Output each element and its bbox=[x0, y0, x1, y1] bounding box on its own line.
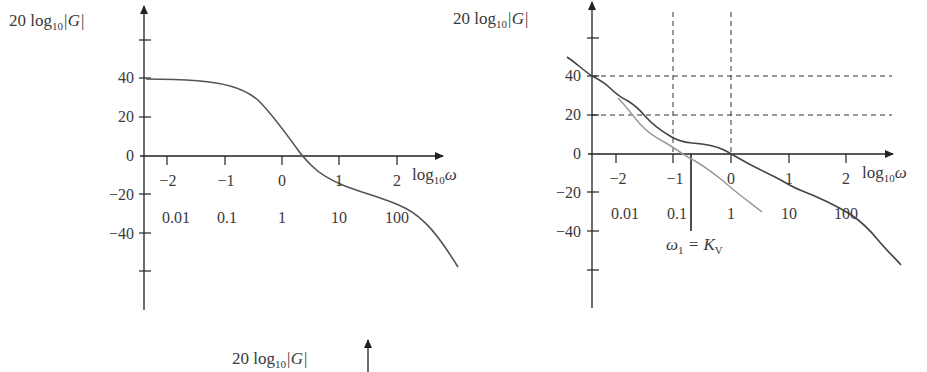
left-freq-1: 1 bbox=[278, 210, 286, 226]
left-y-tick-0: 0 bbox=[94, 148, 134, 164]
right-y-tick-40: 40 bbox=[541, 68, 581, 84]
right-freq-10: 10 bbox=[781, 206, 797, 222]
right-magnitude-curve bbox=[567, 57, 901, 265]
left-x-tick-2: 2 bbox=[393, 173, 401, 189]
left-freq-0.01: 0.01 bbox=[162, 210, 190, 226]
right-y-tick-neg40: −40 bbox=[541, 224, 581, 240]
right-freq-1: 1 bbox=[727, 206, 735, 222]
left-x-ticks bbox=[167, 156, 397, 165]
left-freq-100: 100 bbox=[385, 210, 409, 226]
left-y-tick-20: 20 bbox=[94, 109, 134, 125]
right-y-tick-20: 20 bbox=[541, 107, 581, 123]
right-x-tick-0: 0 bbox=[727, 171, 735, 187]
right-y-axis-label: 20 log10|G| bbox=[453, 10, 529, 30]
right-x-tick-neg2: −2 bbox=[609, 171, 626, 187]
omega1-kv-annotation: ω1 = KV bbox=[666, 236, 723, 256]
right-freq-0.1: 0.1 bbox=[667, 206, 687, 222]
right-y-tick-0: 0 bbox=[541, 146, 581, 162]
left-x-axis-label: log10ω bbox=[412, 166, 457, 186]
left-x-tick-neg2: −2 bbox=[159, 173, 176, 189]
right-freq-100: 100 bbox=[834, 206, 858, 222]
right-x-tick-1: 1 bbox=[785, 171, 793, 187]
left-y-axis-label: 20 log10|G| bbox=[9, 12, 85, 32]
right-freq-0.01: 0.01 bbox=[611, 206, 639, 222]
left-y-tick-neg20: −20 bbox=[94, 187, 134, 203]
left-plot bbox=[139, 6, 458, 310]
left-y-tick-40: 40 bbox=[94, 70, 134, 86]
right-reference-lines bbox=[592, 12, 892, 154]
left-freq-10: 10 bbox=[331, 210, 347, 226]
right-x-tick-neg1: −1 bbox=[666, 171, 683, 187]
left-x-tick-0: 0 bbox=[278, 173, 286, 189]
left-freq-0.1: 0.1 bbox=[217, 210, 237, 226]
right-y-tick-neg20: −20 bbox=[541, 185, 581, 201]
right-plot bbox=[567, 2, 901, 308]
left-x-tick-neg1: −1 bbox=[217, 173, 234, 189]
right-x-axis-label: log10ω bbox=[862, 164, 907, 184]
left-x-tick-1: 1 bbox=[335, 173, 343, 189]
right-x-ticks bbox=[616, 154, 846, 163]
left-y-tick-neg40: −40 bbox=[94, 226, 134, 242]
bottom-y-axis-label: 20 log10|G| bbox=[232, 350, 308, 370]
right-x-tick-2: 2 bbox=[842, 171, 850, 187]
